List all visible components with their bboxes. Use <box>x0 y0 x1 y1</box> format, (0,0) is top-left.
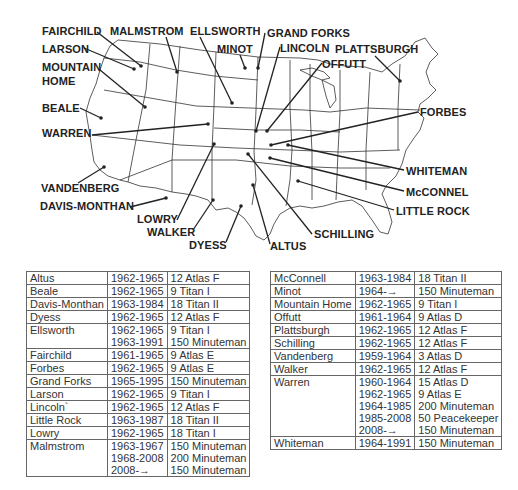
base-location-dot <box>230 101 234 105</box>
missile-count: 18 Titan I <box>171 427 247 439</box>
missiles-cell: 9 Titan I150 Minuteman <box>167 324 250 349</box>
years-cell: 1962-1965 <box>107 311 167 324</box>
base-name-cell: Warren <box>271 376 356 437</box>
table-row: Malmstrom1963-19671968-20082008-→150 Min… <box>27 440 250 477</box>
missile-count: 9 Atlas E <box>171 362 247 374</box>
missiles-cell: 150 Minuteman200 Minuteman150 Minuteman <box>167 440 250 477</box>
years-cell: 1962-1965 <box>107 272 167 285</box>
table-row: Lincoln`1962-196512 Atlas F <box>27 401 250 414</box>
year-range: 1960-1964 <box>359 376 412 388</box>
year-range: 1985-2008 <box>359 412 412 424</box>
missiles-cell: 9 Titan I <box>167 388 250 401</box>
base-name-cell: Davis-Monthan <box>27 298 108 311</box>
map-label: DAVIS-MONTHAN <box>40 200 134 212</box>
years-cell: 1962-1965 <box>107 427 167 440</box>
years-cell: 1962-1965 <box>107 362 167 375</box>
table-row: Little Rock1963-198718 Titan II <box>27 414 250 427</box>
base-name-cell: McConnell <box>271 272 356 285</box>
table-row: Walker1962-196512 Atlas F <box>271 363 502 376</box>
table-row: Altus1962-196512 Atlas F <box>27 272 250 285</box>
base-name-cell: Minot <box>271 285 356 298</box>
base-location-dot <box>268 156 272 160</box>
years-cell: 1960-19641962-19651964-19851985-20082008… <box>355 376 415 437</box>
base-name-cell: Grand Forks <box>27 375 108 388</box>
years-cell: 1961-1964 <box>355 311 415 324</box>
year-range: 1961-1964 <box>359 311 412 323</box>
years-cell: 1963-1984 <box>355 272 415 285</box>
missile-count: 9 Titan I <box>418 298 498 310</box>
missiles-cell: 9 Titan I <box>415 298 502 311</box>
table-row: McConnell1963-198418 Titan II <box>271 272 502 285</box>
base-location-dot <box>239 204 243 208</box>
table-row: Mountain Home1962-19659 Titan I <box>271 298 502 311</box>
map-label: SCHILLING <box>314 228 374 240</box>
map-label: LARSON <box>42 43 89 55</box>
missiles-cell: 12 Atlas F <box>167 311 250 324</box>
table-row: Offutt1961-19649 Atlas D <box>271 311 502 324</box>
years-cell: 1964-→ <box>355 285 415 298</box>
base-name-cell: Beale <box>27 285 108 298</box>
table-row: Warren1960-19641962-19651964-19851985-20… <box>271 376 502 437</box>
base-name-cell: Offutt <box>271 311 356 324</box>
years-cell: 1962-1965 <box>355 298 415 311</box>
years-cell: 1962-19651963-1991 <box>107 324 167 349</box>
year-range: 1962-1965 <box>111 401 164 413</box>
year-range: 1964-→ <box>359 285 412 297</box>
map-label: MINOT <box>217 43 253 55</box>
year-range: 1965-1995 <box>111 375 164 387</box>
missiles-cell: 12 Atlas F <box>415 337 502 350</box>
base-name-cell: Vandenberg <box>271 350 356 363</box>
base-location-dot <box>139 64 143 68</box>
missiles-cell: 150 Minuteman <box>415 437 502 450</box>
missile-count: 3 Atlas D <box>418 350 498 362</box>
missiles-cell: 12 Atlas F <box>167 401 250 414</box>
years-cell: 1963-19671968-20082008-→ <box>107 440 167 477</box>
base-location-dot <box>164 196 168 200</box>
year-range: 1962-1965 <box>111 285 164 297</box>
missiles-cell: 9 Atlas E <box>167 349 250 362</box>
leader-line <box>80 108 101 118</box>
missile-count: 150 Minuteman <box>418 285 498 297</box>
table-row: Larson1962-19659 Titan I <box>27 388 250 401</box>
years-cell: 1962-1965 <box>355 337 415 350</box>
map-label: WALKER <box>147 226 195 238</box>
map-label: ELLSWORTH <box>190 25 261 37</box>
table-row: Beale1962-19659 Titan I <box>27 285 250 298</box>
base-location-dot <box>211 198 215 202</box>
missile-count: 9 Titan I <box>171 324 247 336</box>
map-label: GRAND FORKS <box>267 27 350 39</box>
base-location-dot <box>256 66 260 70</box>
missile-count: 9 Titan I <box>171 285 247 297</box>
missiles-cell: 9 Atlas E <box>167 362 250 375</box>
year-range: 1963-1991 <box>111 336 164 348</box>
years-cell: 1962-1965 <box>107 388 167 401</box>
year-range: 1963-1967 <box>111 440 164 452</box>
missile-count: 150 Minuteman <box>171 440 247 452</box>
base-name-cell: Schilling <box>271 337 356 350</box>
missile-count: 9 Atlas E <box>418 388 498 400</box>
missiles-cell: 18 Titan I <box>167 427 250 440</box>
missile-count: 18 Titan II <box>171 414 247 426</box>
map-label: LOWRY <box>137 213 178 225</box>
map-label: LITTLE ROCK <box>396 205 470 217</box>
missiles-cell: 18 Titan II <box>167 414 250 427</box>
us-outline <box>86 38 438 240</box>
year-range: 1963-1984 <box>111 298 164 310</box>
base-name-cell: Forbes <box>27 362 108 375</box>
years-cell: 1963-1984 <box>107 298 167 311</box>
table-row: Whiteman1964-1991150 Minuteman <box>271 437 502 450</box>
table-row: Minot1964-→150 Minuteman <box>271 285 502 298</box>
years-cell: 1964-1991 <box>355 437 415 450</box>
base-location-dot <box>143 105 147 109</box>
map-label: VANDENBERG <box>41 182 119 194</box>
base-name-cell: Dyess <box>27 311 108 324</box>
years-cell: 1962-1965 <box>355 324 415 337</box>
base-name-cell: Malmstrom <box>27 440 108 477</box>
table-row: Plattsburgh1962-196512 Atlas F <box>271 324 502 337</box>
leader-line <box>78 167 104 183</box>
base-location-dot <box>99 116 103 120</box>
base-location-dot <box>254 129 258 133</box>
year-range: 1962-1965 <box>359 324 412 336</box>
missiles-cell: 18 Titan II <box>167 298 250 311</box>
year-range: 2008-→ <box>359 424 412 436</box>
